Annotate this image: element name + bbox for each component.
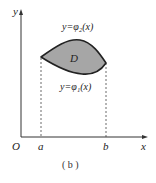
y-axis-arrow-icon <box>19 9 23 15</box>
y-axis-label: y <box>13 6 18 17</box>
tick-a-label: a <box>38 141 44 152</box>
figure-caption: ( b ) <box>62 160 79 170</box>
x-axis-arrow-icon <box>142 135 148 139</box>
upper-curve-label: y=φ₂(x) <box>62 22 93 32</box>
origin-label: O <box>12 141 20 152</box>
tick-b-label: b <box>103 141 109 152</box>
lower-curve-label: y=φ₁(x) <box>60 82 91 92</box>
x-axis-label: x <box>141 141 146 152</box>
region-label: D <box>70 53 78 64</box>
